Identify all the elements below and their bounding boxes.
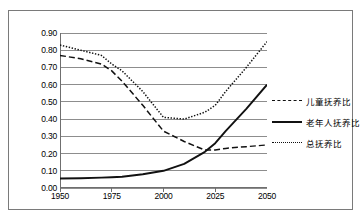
x-axis-tick-label: 1975 [92,191,132,201]
plot-svg [60,33,267,194]
y-axis-tick-label: 0.90 [29,29,57,38]
legend-item: 老年人抚养比 [272,112,358,132]
figure-frame: 0.900.800.700.600.500.400.300.200.100.00… [8,10,353,210]
series-line-2 [60,85,267,179]
y-axis-tick-labels: 0.900.800.700.600.500.400.300.200.100.00 [26,33,57,188]
legend-key-dotted-icon [272,138,302,148]
y-axis-tick-label: 0.50 [29,97,57,106]
legend-label: 总抚养比 [302,137,342,149]
legend-item: 总抚养比 [272,133,358,153]
y-axis-tick-label: 0.70 [29,63,57,72]
y-axis-tick-label: 0.10 [29,166,57,175]
x-axis-tick-labels: 19501975200020252050 [60,191,267,205]
chart-legend: 儿童抚养比老年人抚养比总抚养比 [272,91,358,154]
legend-key-dashed-icon [272,96,302,106]
x-axis-tick-label: 2050 [247,191,287,201]
y-axis-tick-label: 0.40 [29,115,57,124]
x-axis-tick-label: 2025 [195,191,235,201]
plot-area [60,33,267,188]
legend-label: 老年人抚养比 [302,116,360,128]
x-axis-tick-label: 1950 [40,191,80,201]
y-axis-tick-label: 0.60 [29,80,57,89]
legend-item: 儿童抚养比 [272,91,358,111]
chart-screenshot: 0.900.800.700.600.500.400.300.200.100.00… [0,0,361,222]
y-axis-tick-label: 0.20 [29,149,57,158]
series-line-3 [60,42,267,120]
x-axis-tick-label: 2000 [144,191,184,201]
legend-label: 儿童抚养比 [302,95,351,107]
y-axis-tick-label: 0.30 [29,132,57,141]
y-axis-tick-label: 0.80 [29,46,57,55]
legend-key-solid-icon [272,117,302,127]
